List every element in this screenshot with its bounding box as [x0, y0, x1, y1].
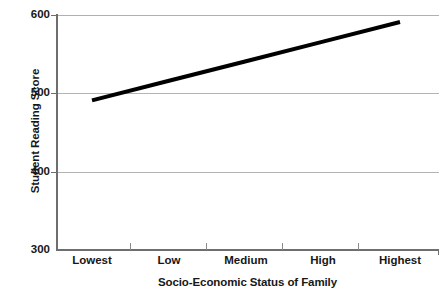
x-axis-title: Socio-Economic Status of Family	[56, 276, 439, 288]
reading-score-chart: Student Reading Score 300400500600 Lowes…	[0, 0, 447, 301]
data-series-line	[0, 0, 447, 301]
